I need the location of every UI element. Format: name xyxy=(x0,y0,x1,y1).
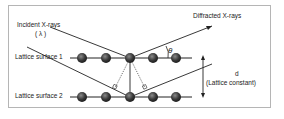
path-diff-1 xyxy=(115,58,130,88)
atom-icon xyxy=(148,92,158,102)
atom-icon xyxy=(125,53,135,63)
diffracted-label: Diffracted X-rays xyxy=(193,13,241,20)
atom-icon xyxy=(148,53,158,63)
theta-label: θ xyxy=(168,47,172,55)
atom-icon xyxy=(125,92,135,102)
atom-icon xyxy=(171,53,181,63)
diffracted-ray-2 xyxy=(130,64,212,97)
atom-icon xyxy=(171,92,181,102)
atom-icon xyxy=(77,53,87,63)
atom-icon xyxy=(101,92,111,102)
right-angle-mark-1 xyxy=(113,84,118,89)
atom-icon xyxy=(77,92,87,102)
path-diff-2 xyxy=(130,58,145,88)
atom-icon xyxy=(101,53,111,63)
surface-2-label: Lattice surface 2 xyxy=(15,93,63,100)
incident-label: Incident X-rays xyxy=(17,22,60,29)
wavelength-label: ( λ ) xyxy=(35,31,46,38)
d-label: d xyxy=(235,71,239,78)
lattice-constant-label: (Lattice constant) xyxy=(206,80,256,87)
surface-1-label: Lattice surface 1 xyxy=(15,54,63,61)
arrow-up-icon xyxy=(201,55,205,60)
arrow-down-icon xyxy=(201,93,205,98)
